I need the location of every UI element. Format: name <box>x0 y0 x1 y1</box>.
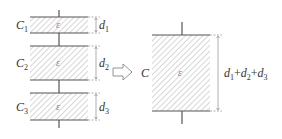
label-d2: d2 <box>99 57 109 74</box>
label-c2: C2 <box>16 57 28 74</box>
label-c: C <box>141 67 149 79</box>
gap-dimension-right <box>210 35 222 111</box>
hollow-right-arrow-icon <box>113 64 132 80</box>
dielectric-c1: ε <box>56 20 60 30</box>
label-total-gap: d1+d2+d3 <box>224 67 268 84</box>
label-c3: C3 <box>16 101 28 118</box>
label-c1: C1 <box>16 19 28 36</box>
dielectric-c2: ε <box>56 58 60 68</box>
dielectric-c: ε <box>178 68 182 78</box>
label-d3: d3 <box>99 101 109 118</box>
dielectric-c3: ε <box>56 102 60 112</box>
label-d1: d1 <box>99 19 109 36</box>
